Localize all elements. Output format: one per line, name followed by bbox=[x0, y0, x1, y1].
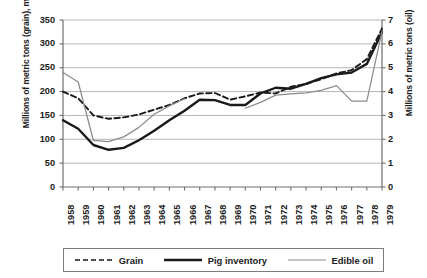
legend-label-pig-inventory: Pig inventory bbox=[208, 255, 267, 266]
plot-area bbox=[0, 0, 427, 278]
legend-item-grain[interactable]: Grain bbox=[74, 255, 144, 266]
chart-container: Millions of metric tons (grain), million… bbox=[0, 0, 427, 278]
chart-legend: Grain Pig inventory Edible oil bbox=[63, 248, 384, 272]
legend-swatch-pig-inventory bbox=[163, 256, 203, 264]
legend-label-edible-oil: Edible oil bbox=[332, 255, 374, 266]
legend-swatch-grain bbox=[74, 256, 114, 264]
legend-swatch-edible-oil bbox=[287, 256, 327, 264]
legend-label-grain: Grain bbox=[119, 255, 144, 266]
legend-item-pig-inventory[interactable]: Pig inventory bbox=[163, 255, 267, 266]
legend-item-edible-oil[interactable]: Edible oil bbox=[287, 255, 374, 266]
